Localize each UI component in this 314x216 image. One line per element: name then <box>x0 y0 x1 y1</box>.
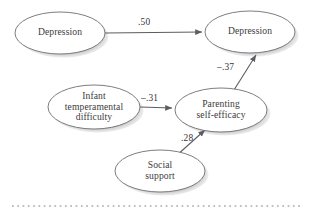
edge-depression-to-depression <box>105 32 202 33</box>
node-outlines <box>15 11 295 192</box>
path-diagram-figure: Depression Depression Infant temperament… <box>0 0 314 216</box>
node-social-support[interactable] <box>115 150 205 192</box>
edge-parenting-to-depression <box>234 55 256 90</box>
node-infant-temperamental-difficulty[interactable] <box>48 85 140 129</box>
node-depression-t2[interactable] <box>205 11 295 53</box>
node-parenting-self-efficacy[interactable] <box>175 88 267 132</box>
edge-infant-to-parenting <box>140 107 172 108</box>
diagram-canvas <box>0 0 314 216</box>
node-depression-t1[interactable] <box>15 12 105 54</box>
